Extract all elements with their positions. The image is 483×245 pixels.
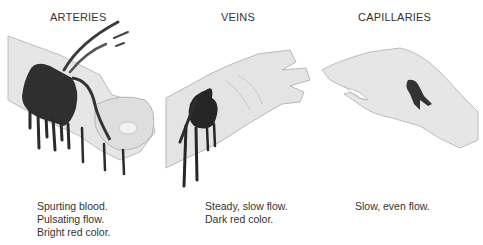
wrist-with-spurting-blood-icon	[8, 22, 155, 174]
caption-line: Slow, even flow.	[355, 200, 430, 213]
caption-capillaries: Slow, even flow.	[355, 200, 430, 213]
caption-line: Spurting blood.	[37, 200, 111, 213]
hand-with-oozing-blood-icon	[322, 48, 478, 148]
caption-line: Pulsating flow.	[37, 213, 111, 226]
caption-line: Bright red color.	[37, 226, 111, 239]
caption-line: Dark red color.	[205, 213, 288, 226]
caption-veins: Steady, slow flow. Dark red color.	[205, 200, 288, 226]
caption-line: Steady, slow flow.	[205, 200, 288, 213]
wrist-with-flowing-blood-icon	[166, 50, 310, 186]
caption-arteries: Spurting blood. Pulsating flow. Bright r…	[37, 200, 111, 239]
